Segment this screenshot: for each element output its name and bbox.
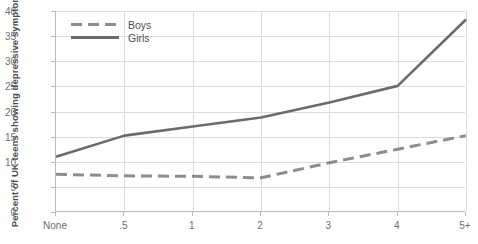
x-tick-label-0: None [43,220,67,231]
x-tick-label-6: 5+ [459,220,470,231]
legend-swatch-solid-icon [71,36,119,39]
y-tick-label-40: 40 [0,6,16,17]
x-tick-mark-3 [260,212,261,216]
y-tick-label-5: 5 [0,181,16,192]
chart-legend: Boys Girls [71,18,151,44]
legend-item-girls[interactable]: Girls [71,31,151,44]
x-tick-mark-4 [328,212,329,216]
y-tick-label-0: 0 [0,207,16,218]
y-tick-label-25: 25 [0,81,16,92]
x-tick-label-4: 3 [326,220,332,231]
legend-item-boys[interactable]: Boys [71,18,151,31]
x-tick-mark-2 [192,212,193,216]
y-tick-label-30: 30 [0,56,16,67]
legend-label-girls: Girls [128,32,150,44]
x-tick-mark-5 [397,212,398,216]
legend-swatch-dashed-icon [71,23,119,26]
x-tick-label-1: .5 [119,220,127,231]
y-tick-label-10: 10 [0,156,16,167]
x-tick-mark-6 [465,212,466,216]
gridline-v-6 [466,11,467,211]
chart-figure: Percent of UK teens showing depressive s… [0,0,478,244]
y-tick-label-35: 35 [0,31,16,42]
x-tick-mark-0 [55,212,56,216]
y-tick-label-15: 15 [0,131,16,142]
x-tick-label-3: 2 [257,220,263,231]
x-tick-mark-1 [123,212,124,216]
series-line-boys [56,136,466,178]
y-tick-label-20: 20 [0,106,16,117]
x-tick-label-5: 4 [394,220,400,231]
legend-label-boys: Boys [128,19,151,31]
x-tick-label-2: 1 [189,220,195,231]
